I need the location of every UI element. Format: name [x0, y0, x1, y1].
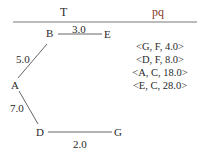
node-b: B: [46, 28, 53, 39]
tree-header: T: [60, 6, 67, 18]
priority-queue-list: <G, F, 4.0> <D, F, 8.0> <A, C, 18.0> <E,…: [128, 40, 192, 92]
edge-weight-d-g: 2.0: [73, 139, 87, 150]
node-a: A: [11, 80, 19, 91]
queue-header: pq: [152, 6, 164, 18]
pq-item: <E, C, 28.0>: [128, 79, 192, 92]
pq-item: <D, F, 8.0>: [128, 53, 192, 66]
pq-item: <A, C, 18.0>: [128, 66, 192, 79]
edge-weight-b-e: 3.0: [72, 24, 86, 35]
node-e: E: [104, 29, 111, 40]
edge-weight-a-b: 5.0: [16, 54, 30, 65]
node-d: D: [36, 127, 44, 138]
node-g: G: [114, 127, 122, 138]
edge-weight-a-d: 7.0: [10, 103, 24, 114]
pq-item: <G, F, 4.0>: [128, 40, 192, 53]
